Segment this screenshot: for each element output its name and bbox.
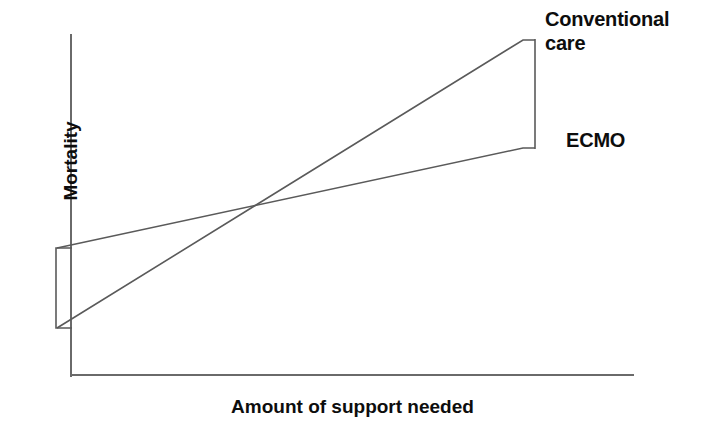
series-line-conventional-care <box>57 40 535 328</box>
series-line-ecmo <box>57 148 535 248</box>
chart-plot-area <box>0 0 705 431</box>
series-label-conventional-care: Conventional care <box>545 8 695 55</box>
left-bracket <box>56 248 72 328</box>
series-label-ecmo: ECMO <box>566 129 625 153</box>
y-axis-label: Mortality <box>60 111 82 211</box>
mortality-vs-support-chart: Conventional care ECMO Amount of support… <box>0 0 705 431</box>
x-axis-label: Amount of support needed <box>0 396 705 418</box>
